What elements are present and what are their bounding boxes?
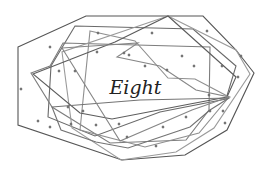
dot-marker — [36, 119, 39, 123]
dot-marker — [96, 31, 99, 35]
dot-marker — [205, 29, 208, 33]
dot-marker — [192, 64, 195, 68]
dot-marker — [180, 54, 183, 58]
dot-marker — [117, 122, 120, 126]
dot-marker — [95, 50, 98, 54]
dot-marker — [127, 53, 130, 57]
dot-marker — [48, 125, 51, 129]
dot-marker — [48, 45, 51, 49]
dot-marker — [94, 123, 97, 127]
dot-marker — [150, 31, 153, 35]
dot-marker — [161, 125, 164, 129]
dot-marker — [57, 69, 60, 73]
dot-marker — [223, 121, 226, 125]
dot-marker — [184, 115, 187, 119]
center-label: Eight — [0, 78, 271, 97]
dot-marker — [143, 64, 146, 68]
